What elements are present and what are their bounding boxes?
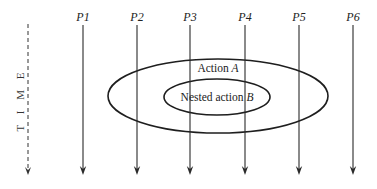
process-p5: P5 <box>291 10 305 175</box>
process-label: P3 <box>182 10 196 24</box>
time-label: T I M E <box>14 69 26 132</box>
process-p1: P1 <box>75 10 89 175</box>
process-label: P4 <box>237 10 251 24</box>
process-label: P1 <box>75 10 89 24</box>
nested-action-b: Nested action B <box>164 79 270 115</box>
time-arrowhead-icon <box>25 167 31 175</box>
process-label: P2 <box>129 10 143 24</box>
process-p6: P6 <box>345 10 359 175</box>
process-p2: P2 <box>129 10 143 175</box>
nested-action-b-label: Nested action B <box>181 91 254 103</box>
actions: Action ANested action B <box>108 59 328 133</box>
nested-action-diagram: T I M E Action ANested action B P1P2P3P4… <box>0 0 377 189</box>
process-label: P6 <box>345 10 359 24</box>
action-a-label: Action A <box>197 62 239 74</box>
time-axis: T I M E <box>14 24 31 175</box>
process-label: P5 <box>291 10 305 24</box>
